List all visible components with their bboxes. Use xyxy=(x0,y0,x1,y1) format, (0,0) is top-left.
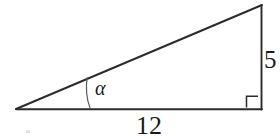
angle-arc-icon xyxy=(86,77,90,108)
vertical-side-length-label: 5 xyxy=(264,47,277,72)
triangle-figure: 5 12 α xyxy=(0,0,280,139)
hypotenuse-line xyxy=(16,5,262,109)
angle-alpha-label: α xyxy=(95,78,106,98)
scan-speck-artifact xyxy=(26,130,30,133)
horizontal-side-length-label: 12 xyxy=(136,113,162,139)
right-angle-marker-icon xyxy=(247,96,259,107)
